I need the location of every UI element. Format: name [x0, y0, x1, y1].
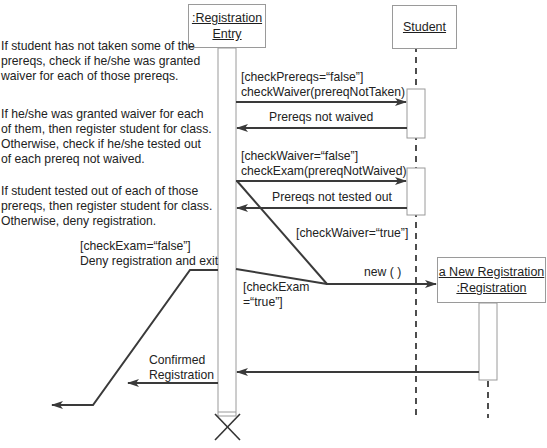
check-waiver-true-label: [checkWaiver=“true”]	[296, 226, 408, 241]
deny-path-arrow	[52, 270, 218, 405]
registration-entry-label: :Registration Entry	[192, 10, 262, 42]
note-tested-out: If student tested out of each of those p…	[1, 184, 212, 229]
student-activation-2	[407, 168, 425, 215]
student-object: Student	[392, 5, 457, 49]
check-exam-true-label: [checkExam =“true”]	[243, 280, 309, 310]
check-exam-label: [checkWaiver=“false”] checkExam(prereqNo…	[241, 149, 407, 179]
student-label: Student	[403, 19, 446, 35]
note-prereqs-waiver: If student has not taken some of the pre…	[1, 39, 200, 84]
student-activation-1	[407, 89, 425, 138]
destroy-x-icon	[215, 414, 240, 440]
note-waiver-granted: If he/she was granted waiver for each of…	[1, 107, 212, 167]
confirmed-registration-label: Confirmed Registration	[149, 353, 214, 383]
new-registration-object: a New Registration :Registration	[437, 257, 546, 303]
check-waiver-label: [checkPrereqs=“false”] checkWaiver(prere…	[241, 70, 405, 100]
prereqs-not-tested-out-label: Prereqs not tested out	[272, 190, 392, 205]
new-label: new ( )	[364, 265, 401, 280]
registration-entry-activation	[218, 48, 236, 416]
deny-label: [checkExam=“false”] Deny registration an…	[80, 239, 218, 269]
new-registration-activation	[479, 303, 497, 380]
prereqs-not-waived-label: Prereqs not waived	[269, 110, 373, 125]
new-registration-label: a New Registration :Registration	[439, 264, 545, 296]
